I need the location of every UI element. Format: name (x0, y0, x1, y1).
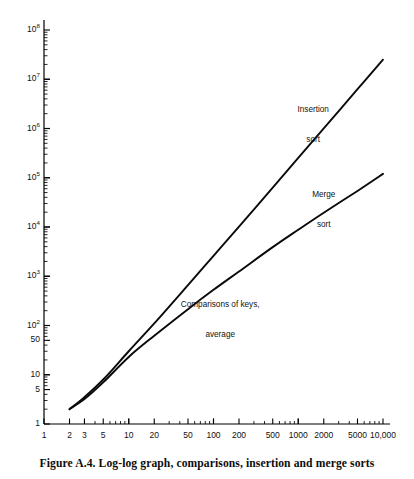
y-axis-label: 104 (27, 222, 40, 231)
x-axis-label: 20 (150, 431, 159, 440)
x-axis-label: 50 (183, 431, 192, 440)
x-axis-label: 2000 (314, 431, 333, 440)
y-axis-label: 50 (31, 335, 40, 344)
y-axis-label: 103 (27, 271, 40, 280)
merge-sort-annotation-line2: sort (312, 220, 335, 230)
x-axis-label: 3 (82, 431, 87, 440)
merge-sort-annotation: Merge sort (312, 170, 335, 250)
x-axis-label: 5 (101, 431, 106, 440)
x-axis-label: 10 (124, 431, 133, 440)
x-axis-label: 500 (266, 431, 280, 440)
insertion-sort-annotation: Insertion sort (297, 85, 328, 165)
x-axis-label: 10,000 (370, 431, 396, 440)
x-axis-label: 100 (206, 431, 220, 440)
insertion-sort-annotation-line2: sort (297, 135, 328, 145)
merge-sort-annotation-line1: Merge (312, 190, 335, 200)
comparisons-of-keys-annotation: Comparisons of keys, average (181, 280, 260, 360)
y-axis-label: 1 (35, 419, 40, 428)
x-axis-label: 2 (67, 431, 72, 440)
chart-axes (44, 20, 390, 424)
log-log-chart: 108107106105104103102501051 123510205010… (0, 0, 414, 479)
chart-canvas (0, 0, 414, 455)
x-axis-label: 5000 (348, 431, 367, 440)
y-axis-label: 5 (35, 385, 40, 394)
figure-caption: Figure A.4. Log-log graph, comparisons, … (0, 457, 414, 470)
y-axis-label: 108 (27, 25, 40, 34)
y-axis-label: 105 (27, 173, 40, 182)
x-axis-label: 1 (42, 431, 47, 440)
y-axis-label: 106 (27, 124, 40, 133)
y-axis-label: 102 (27, 321, 40, 330)
figure-page: 108107106105104103102501051 123510205010… (0, 0, 414, 479)
x-axis-label: 200 (232, 431, 246, 440)
y-axis-label: 107 (27, 74, 40, 83)
x-axis-label: 1000 (289, 431, 308, 440)
y-axis-label: 10 (31, 370, 40, 379)
insertion-sort-annotation-line1: Insertion (297, 105, 328, 115)
comparisons-note-line2: average (181, 330, 260, 340)
comparisons-note-line1: Comparisons of keys, (181, 300, 260, 310)
